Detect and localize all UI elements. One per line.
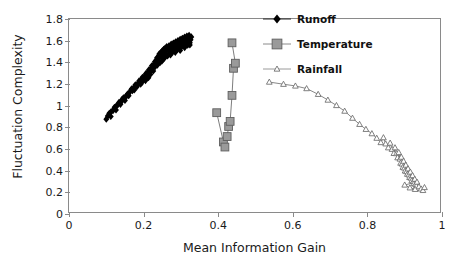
filled-diamond-icon — [262, 12, 292, 26]
filled-square-icon — [262, 37, 292, 51]
y-tick-mark — [65, 171, 70, 172]
x-tick-mark — [69, 212, 70, 217]
y-tick-mark — [65, 127, 70, 128]
data-point — [387, 140, 393, 145]
chart-legend: RunoffTemperatureRainfall — [262, 6, 370, 81]
x-tick-mark — [293, 212, 294, 217]
y-tick-mark — [65, 192, 70, 193]
data-point — [226, 117, 234, 125]
data-point — [315, 91, 321, 96]
y-tick-label: 0.2 — [46, 187, 64, 198]
data-point — [213, 109, 221, 117]
x-tick-mark — [442, 212, 443, 217]
legend-label: Temperature — [297, 38, 373, 50]
y-tick-label: 0 — [56, 209, 63, 220]
data-point — [422, 184, 428, 189]
legend-item-rainfall[interactable]: Rainfall — [262, 56, 370, 81]
series-runoff — [103, 32, 194, 123]
y-tick-mark — [65, 62, 70, 63]
data-point — [221, 143, 229, 151]
x-tick-label: 0.8 — [359, 220, 377, 231]
data-point — [381, 135, 387, 140]
legend-label: Runoff — [297, 13, 336, 25]
y-tick-label: 0.6 — [46, 144, 64, 155]
y-tick-label: 0.4 — [46, 165, 64, 176]
data-point — [223, 133, 231, 141]
x-axis-title: Mean Information Gain — [68, 240, 441, 255]
plot-area: 00.20.40.60.811.21.41.61.8 00.20.40.60.8… — [68, 18, 441, 213]
series-line — [269, 82, 424, 190]
data-point — [334, 102, 340, 107]
series-rainfall — [266, 79, 427, 192]
open-triangle-icon — [262, 62, 292, 76]
y-tick-label: 1.4 — [46, 57, 64, 68]
x-tick-label: 0.4 — [209, 220, 227, 231]
plot-svg — [69, 19, 442, 214]
data-point — [342, 108, 348, 113]
data-point — [228, 91, 236, 99]
y-tick-mark — [65, 19, 70, 20]
y-axis-title: Fluctuation Complexity — [6, 0, 28, 213]
data-point — [325, 97, 331, 102]
y-tick-mark — [65, 106, 70, 107]
x-tick-label: 0 — [66, 220, 73, 231]
x-tick-mark — [367, 212, 368, 217]
data-point — [363, 126, 369, 131]
data-point — [369, 131, 375, 136]
x-tick-mark — [218, 212, 219, 217]
y-tick-label: 1.6 — [46, 35, 64, 46]
x-tick-label: 0.6 — [284, 220, 302, 231]
y-tick-label: 0.8 — [46, 122, 64, 133]
legend-label: Rainfall — [297, 63, 342, 75]
y-tick-label: 1.8 — [46, 14, 64, 25]
x-tick-label: 0.2 — [135, 220, 153, 231]
y-tick-label: 1.2 — [46, 79, 64, 90]
legend-item-runoff[interactable]: Runoff — [262, 6, 370, 31]
chart-figure: Fluctuation Complexity 00.20.40.60.811.2… — [0, 0, 461, 268]
series-temperature — [213, 39, 239, 151]
data-point — [231, 59, 239, 67]
x-tick-mark — [144, 212, 145, 217]
y-tick-mark — [65, 84, 70, 85]
legend-item-temperature[interactable]: Temperature — [262, 31, 370, 56]
y-tick-mark — [65, 41, 70, 42]
data-point — [228, 39, 236, 47]
x-tick-label: 1 — [439, 220, 446, 231]
y-tick-mark — [65, 149, 70, 150]
y-tick-label: 1 — [56, 100, 63, 111]
